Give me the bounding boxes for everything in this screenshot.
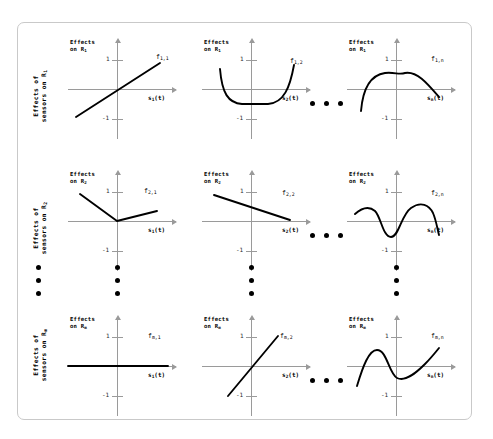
function-label-1-n: f1,n	[431, 55, 444, 63]
curve-m-1	[64, 308, 182, 423]
dot	[338, 101, 343, 106]
dot	[394, 291, 399, 296]
plot-cell-1-1: 1 -1 Effects on R1 s1(t) f1,1	[64, 31, 182, 146]
plot-cell-m-n: 1 -1 Effects on Rm sn(t) fm,n	[343, 308, 461, 423]
function-label-2-n: f2,n	[431, 189, 444, 197]
curve-m-2	[198, 308, 316, 423]
curve-m-n	[343, 308, 461, 423]
plot-cell-1-n: 1 -1 Effects on R1 sn(t) f1,n	[343, 31, 461, 146]
curve-2-1	[64, 163, 182, 278]
dot	[36, 278, 41, 283]
dot	[249, 265, 254, 270]
plot-grid: Effects of sensors on R1 Effects of sens…	[18, 23, 471, 419]
curve-1-2	[198, 31, 316, 146]
row-label-1: Effects of sensors on R1	[32, 36, 50, 156]
row-label-2-line2: sensors on R2	[40, 168, 50, 288]
dot	[324, 101, 329, 106]
dot	[324, 233, 329, 238]
vertical-ellipsis-label-col	[36, 265, 41, 296]
horizontal-ellipsis-row-1	[310, 101, 343, 106]
vertical-ellipsis-col-2	[249, 265, 254, 296]
curve-1-1	[64, 31, 182, 146]
function-label-1-1: f1,1	[156, 53, 169, 61]
dot	[249, 291, 254, 296]
function-label-2-2: f2,2	[282, 189, 295, 197]
plot-cell-2-n: 1 -1 Effects on R2 sn(t) f2,n	[343, 163, 461, 278]
dot	[338, 233, 343, 238]
function-label-m-2: fm,2	[280, 332, 293, 340]
dot	[324, 378, 329, 383]
row-label-m: Effects of sensors on Rm	[32, 295, 50, 415]
row-label-1-line1: Effects of	[32, 75, 39, 116]
plot-cell-m-2: 1 -1 Effects on Rm s2(t) fm,2	[198, 308, 316, 423]
plot-cell-1-2: 1 -1 Effects on R1 s2(t) f1,2	[198, 31, 316, 146]
dot	[249, 278, 254, 283]
figure-panel: Effects of sensors on R1 Effects of sens…	[17, 22, 472, 420]
vertical-ellipsis-col-1	[115, 265, 120, 296]
row-label-2-line1: Effects of	[32, 207, 39, 248]
vertical-ellipsis-col-n	[394, 265, 399, 296]
dot	[115, 291, 120, 296]
dot	[394, 265, 399, 270]
plot-cell-m-1: 1 -1 Effects on Rm s1(t) fm,1	[64, 308, 182, 423]
function-label-1-2: f1,2	[290, 57, 303, 65]
curve-2-2	[198, 163, 316, 278]
plot-cell-2-1: 1 -1 Effects on R2 s1(t) f2,1	[64, 163, 182, 278]
dot	[36, 291, 41, 296]
horizontal-ellipsis-row-2	[310, 233, 343, 238]
row-label-m-line2: sensors on Rm	[40, 295, 50, 415]
dot	[394, 278, 399, 283]
dot	[115, 278, 120, 283]
curve-2-n	[343, 163, 461, 278]
plot-cell-2-2: 1 -1 Effects on R2 s2(t) f2,2	[198, 163, 316, 278]
dot	[115, 265, 120, 270]
function-label-m-1: fm,1	[148, 332, 161, 340]
dot	[310, 233, 315, 238]
dot	[310, 101, 315, 106]
function-label-2-1: f2,1	[144, 187, 157, 195]
row-label-m-line1: Effects of	[32, 334, 39, 375]
curve-1-n	[343, 31, 461, 146]
row-label-1-line2: sensors on R1	[40, 36, 50, 156]
function-label-m-n: fm,n	[431, 332, 444, 340]
dot	[36, 265, 41, 270]
